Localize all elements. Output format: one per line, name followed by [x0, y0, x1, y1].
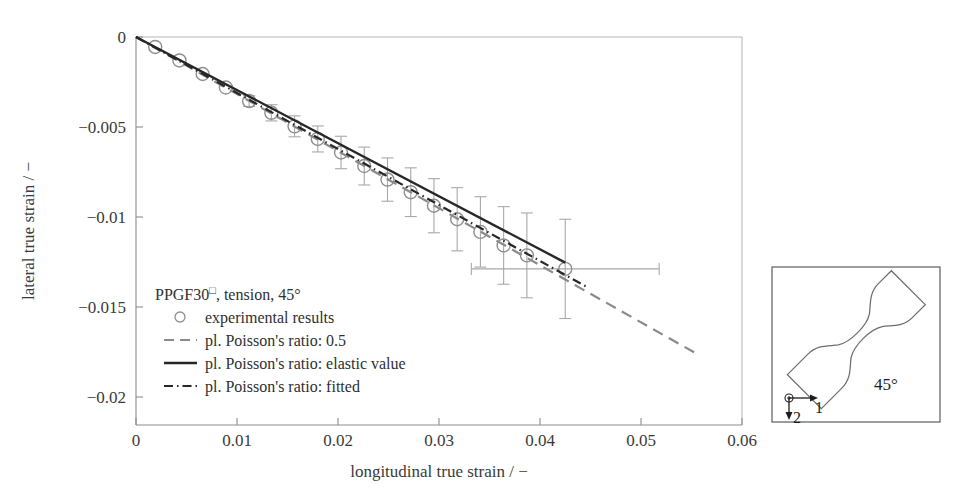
x-tick-label-2: 0.02 [323, 431, 353, 450]
x-tick-label-6: 0.06 [727, 431, 757, 450]
inset-axis-1-label: 1 [815, 399, 823, 416]
legend-title-rest: , tension, 45° [216, 286, 301, 303]
y-tick-label-1: −0.005 [78, 118, 126, 137]
inset-axis-2-label: 2 [793, 409, 801, 426]
legend-label-0: experimental results [205, 309, 334, 327]
chart-svg: 0 0.01 0.02 0.03 0.04 0.05 0.06 0 −0.005… [0, 0, 965, 502]
y-tick-label-0: 0 [118, 28, 127, 47]
legend-marker-open-circle [175, 312, 185, 322]
x-axis-title: longitudinal true strain / − [350, 462, 528, 481]
y-tick-label-4: −0.02 [87, 388, 126, 407]
data-series-layer [136, 37, 697, 354]
x-axis-ticks [136, 418, 742, 425]
inset-border [772, 267, 940, 422]
x-tick-label-3: 0.03 [424, 431, 454, 450]
inset-angle-label: 45° [874, 375, 898, 394]
x-tick-label-4: 0.04 [525, 431, 555, 450]
y-tick-label-2: −0.01 [87, 208, 126, 227]
x-tick-label-0: 0 [132, 431, 141, 450]
legend: PPGF30□, tension, 45° experimental resul… [155, 284, 406, 396]
series-line [136, 37, 565, 263]
series-line [136, 37, 588, 288]
legend-title-main: PPGF30 [155, 286, 209, 303]
legend-title: PPGF30□, tension, 45° [155, 284, 301, 303]
x-tick-label-5: 0.05 [626, 431, 656, 450]
y-axis-title: lateral true strain / − [19, 162, 38, 300]
x-tick-label-1: 0.01 [222, 431, 252, 450]
legend-label-1: pl. Poisson's ratio: 0.5 [205, 332, 346, 350]
inset-specimen-diagram: 45° 1 2 [772, 267, 940, 426]
figure-container: 0 0.01 0.02 0.03 0.04 0.05 0.06 0 −0.005… [0, 0, 965, 502]
legend-label-2: pl. Poisson's ratio: elastic value [205, 355, 406, 373]
y-axis-ticks [136, 37, 143, 397]
legend-label-3: pl. Poisson's ratio: fitted [205, 378, 360, 396]
y-tick-label-3: −0.015 [78, 298, 126, 317]
